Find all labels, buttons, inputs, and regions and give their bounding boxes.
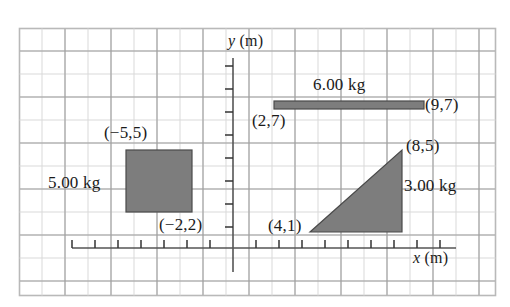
label-square-topleft-coord: (−5,5) <box>104 124 147 141</box>
physics-coordinate-figure: y (m) x (m) (−5,5) 5.00 kg (−2,2) 6.00 k… <box>0 0 510 307</box>
label-triangle-apex-coord: (8,5) <box>406 137 440 154</box>
shape-bar-6kg <box>274 101 424 109</box>
label-bar-right-coord: (9,7) <box>425 96 459 113</box>
x-axis-unit: (m) <box>425 249 449 266</box>
y-axis-label: y (m) <box>228 33 263 49</box>
label-square-bottomright-coord: (−2,2) <box>159 216 202 233</box>
shape-square-5kg <box>126 150 192 212</box>
x-axis-label: x (m) <box>413 250 448 266</box>
y-axis-unit: (m) <box>240 32 264 49</box>
label-triangle-mass: 3.00 kg <box>404 177 456 194</box>
label-bar-mass: 6.00 kg <box>313 76 365 93</box>
label-triangle-base-coord: (4,1) <box>268 217 302 234</box>
label-bar-left-coord: (2,7) <box>252 112 286 129</box>
label-square-mass: 5.00 kg <box>48 174 100 191</box>
